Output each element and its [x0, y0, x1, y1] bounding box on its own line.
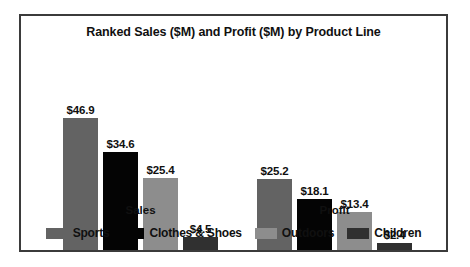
legend-item-outdoors[interactable]: Outdoors: [255, 226, 334, 240]
plot-area: $46.9$34.6$25.4$4.5Sales$25.2$18.1$13.4$…: [21, 16, 446, 250]
bar-rect: [377, 243, 412, 250]
legend-label: Clothes & Shoes: [149, 226, 241, 240]
bar-clothes-shoes-profit[interactable]: $18.1: [297, 65, 332, 250]
bar-children-profit[interactable]: $2.4: [377, 65, 412, 250]
legend-swatch-icon: [46, 228, 68, 239]
legend-label: Children: [374, 226, 421, 240]
bar-value-label: $34.6: [107, 138, 135, 150]
bar-children-sales[interactable]: $4.5: [183, 65, 218, 250]
bar-value-label: $25.2: [261, 165, 289, 177]
bar-clothes-shoes-sales[interactable]: $34.6: [103, 65, 138, 250]
legend-item-children[interactable]: Children: [347, 226, 421, 240]
legend-label: Outdoors: [282, 226, 334, 240]
bar-outdoors-profit[interactable]: $13.4: [337, 65, 372, 250]
legend-swatch-icon: [255, 228, 277, 239]
legend-swatch-icon: [347, 228, 369, 239]
axis-label-sales: Sales: [125, 204, 155, 216]
bar-sports-profit[interactable]: $25.2: [257, 65, 292, 250]
axis-label-profit: Profit: [319, 204, 349, 216]
bar-outdoors-sales[interactable]: $25.4: [143, 65, 178, 250]
chart-frame: Ranked Sales ($M) and Profit ($M) by Pro…: [19, 14, 448, 252]
legend-swatch-icon: [122, 228, 144, 239]
bar-value-label: $25.4: [147, 164, 175, 176]
bar-value-label: $46.9: [67, 104, 95, 116]
bar-sports-sales[interactable]: $46.9: [63, 65, 98, 250]
legend-item-sports[interactable]: Sports: [46, 226, 110, 240]
bar-value-label: $18.1: [301, 185, 329, 197]
chart-legend: SportsClothes & ShoesOutdoorsChildren: [21, 226, 446, 240]
legend-item-clothes-shoes[interactable]: Clothes & Shoes: [122, 226, 241, 240]
legend-label: Sports: [73, 226, 110, 240]
